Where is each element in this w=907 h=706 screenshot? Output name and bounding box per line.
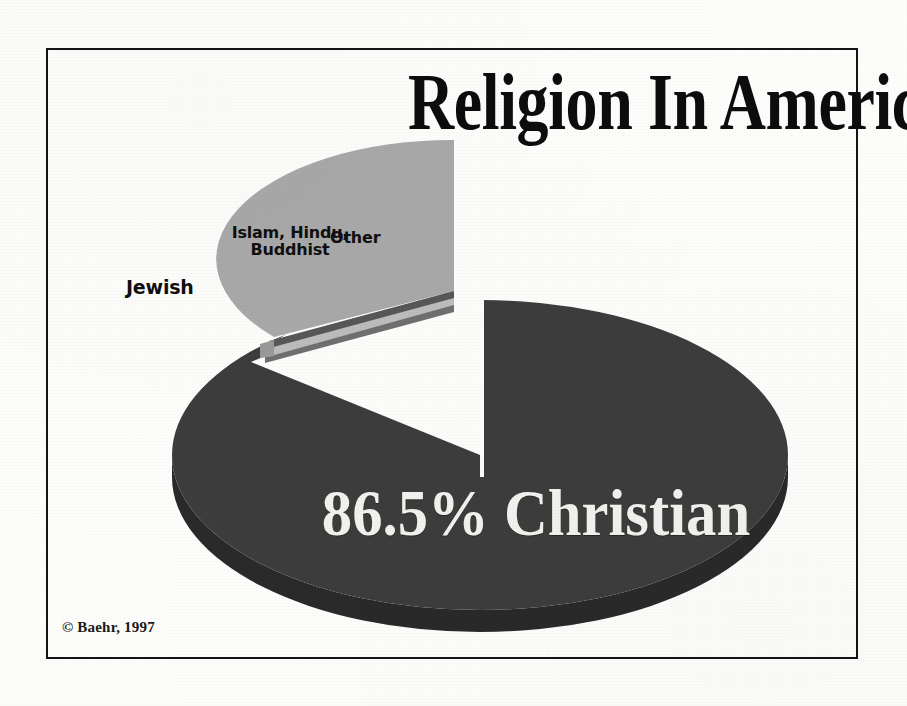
pie-wedge-gap	[480, 291, 484, 477]
slide-canvas: Religion In America	[0, 0, 907, 706]
pie-wedge-tip	[260, 340, 274, 358]
pie-chart: 86.5% Christian	[46, 48, 858, 659]
copyright-notice: © Baehr, 1997	[62, 619, 155, 636]
pie-chart-graphic	[46, 48, 858, 659]
pie-label-other: Other	[330, 229, 450, 246]
pie-label-jewish: Jewish	[126, 277, 266, 298]
pie-data-label-christian: 86.5% Christian	[223, 480, 849, 546]
